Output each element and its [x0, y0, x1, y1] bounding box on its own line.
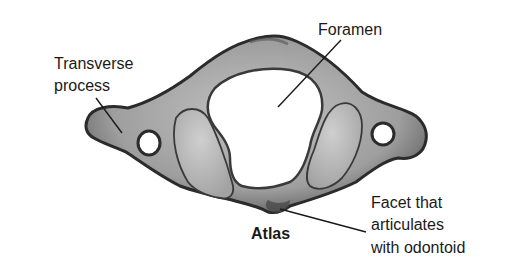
foramen-label: Foramen — [318, 20, 382, 39]
atlas-title: Atlas — [251, 224, 290, 243]
facet-leader-line — [280, 209, 366, 232]
transverse-process-label-line1: Transverse — [54, 54, 133, 73]
left-transverse-foramen — [138, 131, 160, 155]
facet-label-line3: with odontoid — [371, 238, 465, 257]
right-transverse-foramen — [372, 123, 394, 145]
facet-label-line2: articulates — [371, 215, 444, 234]
atlas-diagram: Foramen Transverse process Atlas Facet t… — [0, 0, 530, 273]
transverse-process-label-line2: process — [54, 76, 110, 95]
facet-label-line1: Facet that — [371, 193, 442, 212]
